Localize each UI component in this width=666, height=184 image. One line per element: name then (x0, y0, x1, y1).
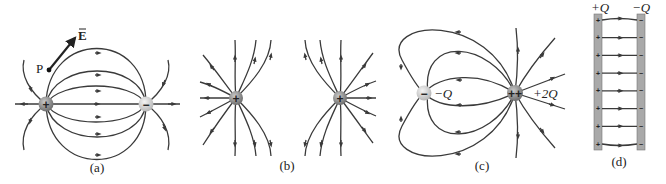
field-line-arrow (30, 86, 31, 90)
point-p-label: P (36, 61, 43, 76)
field-line (46, 104, 146, 122)
field-line-arrow (364, 84, 368, 86)
plate-charge-sign: + (596, 123, 600, 130)
field-line-arrow (208, 84, 212, 86)
plate-charge-sign: + (596, 17, 600, 24)
field-line (305, 40, 340, 98)
charge-label: +2Q (533, 86, 558, 101)
field-line (320, 98, 340, 156)
panel-d-parallel-plates: +Q −Q +−+−+−+−+−+−+−+− (d) (591, 0, 651, 169)
plate-charge-sign: + (596, 141, 600, 148)
field-line-arrow (305, 55, 306, 60)
panel-a-dipole: P E + − (a) (15, 28, 180, 175)
plate-charge-sign: − (639, 17, 643, 24)
plate-charge-sign: + (596, 34, 600, 41)
plate-charge-sign: − (639, 105, 643, 112)
field-line-arrow (163, 80, 165, 85)
plate-charge-sign: − (639, 34, 643, 41)
field-line-arrow (549, 78, 553, 80)
charge-sign: − (142, 98, 149, 112)
plate-charge-sign: − (639, 123, 643, 130)
plate-charge-sign: + (596, 70, 600, 77)
field-line-arrow (270, 140, 271, 145)
field-line (235, 98, 236, 156)
plate-charge-sign: + (596, 87, 600, 94)
charge-label: −Q (434, 86, 453, 101)
field-lines-figure: P E + − (a) (0, 0, 666, 184)
plate-label-negative: −Q (632, 0, 651, 15)
field-line (515, 93, 517, 158)
field-line (203, 98, 236, 145)
plate-charge-sign: + (596, 105, 600, 112)
panel-caption: (a) (90, 160, 104, 175)
field-line (340, 40, 341, 98)
field-line (46, 71, 146, 104)
field-line-arrow (30, 118, 31, 122)
field-line (236, 98, 256, 156)
charge-sign: + (232, 92, 239, 106)
charge-sign: − (420, 87, 427, 101)
field-line-arrow (254, 59, 255, 64)
field-line (236, 40, 256, 98)
field-line (236, 40, 271, 98)
electric-field-vector (49, 38, 75, 70)
field-line (340, 98, 341, 156)
field-line (46, 104, 146, 160)
field-line (515, 93, 555, 148)
field-line-arrow (549, 104, 553, 105)
plate-label-positive: +Q (591, 0, 610, 15)
field-line (340, 98, 373, 143)
panel-caption: (d) (611, 154, 626, 169)
field-line-arrow (364, 111, 368, 113)
field-line (320, 40, 340, 98)
field-line (515, 28, 517, 93)
panel-caption: (c) (475, 158, 489, 173)
field-line (46, 104, 146, 137)
field-line (399, 93, 515, 156)
field-line-arrow (208, 111, 212, 113)
field-line (235, 40, 236, 98)
field-line-arrow (270, 55, 271, 60)
panel-caption: (b) (279, 158, 294, 173)
plate-charge-sign: − (639, 87, 643, 94)
point-p-dot (47, 68, 52, 73)
plate-charge-sign: − (639, 52, 643, 59)
vector-e-label: E (78, 28, 87, 43)
charge-sign: + (42, 98, 49, 112)
field-line-arrow (321, 59, 322, 64)
field-line (203, 55, 236, 98)
field-line (305, 98, 340, 156)
plate-charge-sign: − (639, 70, 643, 77)
field-line (340, 53, 373, 98)
panel-c-unequal-charges: − −Q ++ +2Q (c) (399, 28, 565, 173)
plate-charge-sign: + (596, 52, 600, 59)
plate-charge-sign: − (639, 141, 643, 148)
plate-field-lines: +−+−+−+−+−+−+−+− (596, 17, 643, 148)
charge-sign: + (336, 92, 343, 106)
field-line (46, 86, 146, 104)
field-line-arrow (305, 140, 306, 145)
panel-b-like-charges: + + (b) (200, 40, 376, 173)
field-line (236, 98, 271, 156)
charge-sign: ++ (508, 87, 522, 101)
